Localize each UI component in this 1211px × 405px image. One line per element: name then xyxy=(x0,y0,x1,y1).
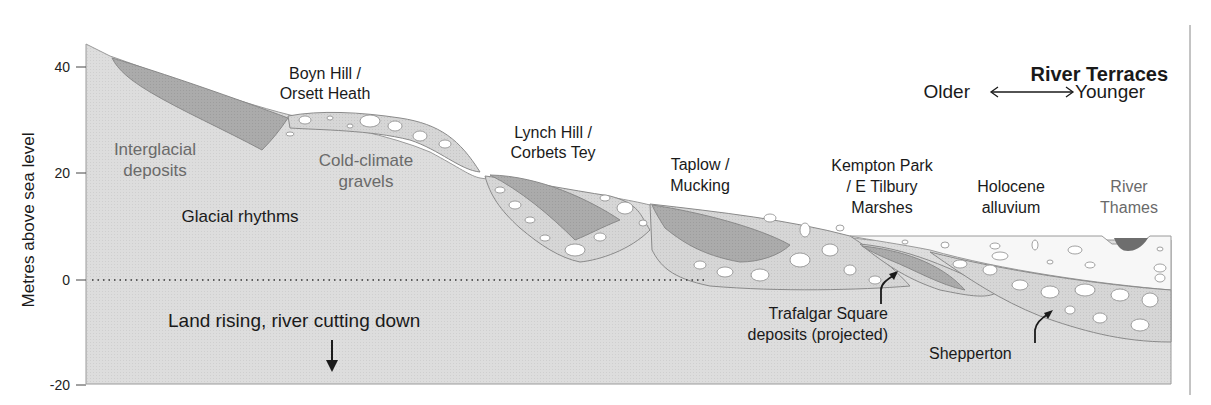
y-tick-20: 20 xyxy=(54,165,70,181)
label-taplow-1: Taplow / xyxy=(671,156,730,173)
label-cold-climate-1: Cold-climate xyxy=(319,151,413,170)
age-label-younger: Younger xyxy=(1075,81,1146,102)
label-interglacial-2: deposits xyxy=(123,161,186,180)
label-river-thames-2: Thames xyxy=(1100,199,1158,216)
label-kempton-1: Kempton Park xyxy=(831,157,933,174)
label-glacial-rhythms: Glacial rhythms xyxy=(181,207,298,226)
river-terraces-diagram: 40 20 0 -20 Metres above sea level River… xyxy=(0,0,1211,405)
label-holocene-1: Holocene xyxy=(977,178,1045,195)
y-axis xyxy=(76,67,86,385)
label-boyn-hill-1: Boyn Hill / xyxy=(289,65,362,82)
label-trafalgar-2: deposits (projected) xyxy=(747,326,888,343)
y-tick-0: 0 xyxy=(62,272,70,288)
label-lynch-hill-1: Lynch Hill / xyxy=(514,124,592,141)
label-lynch-hill-2: Corbets Tey xyxy=(510,144,595,161)
label-taplow-2: Mucking xyxy=(670,177,730,194)
label-kempton-3: Marshes xyxy=(851,199,912,216)
label-holocene-2: alluvium xyxy=(982,199,1041,216)
label-trafalgar-1: Trafalgar Square xyxy=(769,305,889,322)
label-river-thames-1: River xyxy=(1110,178,1148,195)
double-arrow-icon xyxy=(991,87,1073,97)
y-axis-label: Metres above sea level xyxy=(19,133,38,308)
label-kempton-2: / E Tilbury xyxy=(846,178,917,195)
label-interglacial-1: Interglacial xyxy=(114,140,196,159)
label-boyn-hill-2: Orsett Heath xyxy=(280,85,371,102)
label-land-rising: Land rising, river cutting down xyxy=(168,310,420,331)
age-label-older: Older xyxy=(924,81,971,102)
label-shepperton: Shepperton xyxy=(929,345,1012,362)
y-tick-40: 40 xyxy=(54,59,70,75)
label-cold-climate-2: gravels xyxy=(339,172,394,191)
y-tick-minus-20: -20 xyxy=(50,377,70,393)
